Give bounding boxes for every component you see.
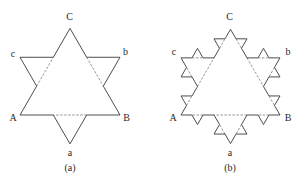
fig-a-label-c: c bbox=[11, 49, 15, 59]
fig-b-label-c: c bbox=[172, 47, 176, 57]
figure-b-snowflake-outline bbox=[181, 29, 280, 143]
fig-b-label-C: C bbox=[226, 12, 233, 22]
figure-a-koch-iteration-1 bbox=[20, 28, 120, 143]
fig-a-label-b: b bbox=[123, 47, 128, 57]
fig-b-label-B: B bbox=[285, 113, 292, 123]
fig-a-label-C: C bbox=[66, 12, 73, 22]
figure-a-removed-segments bbox=[37, 57, 104, 115]
koch-snowflake-diagram bbox=[0, 0, 299, 185]
fig-a-caption: (a) bbox=[64, 163, 75, 173]
figure-a-star-outline bbox=[20, 28, 120, 143]
fig-a-label-a: a bbox=[68, 148, 72, 158]
figure-b-koch-iteration-2 bbox=[181, 29, 280, 143]
fig-b-label-A: A bbox=[169, 113, 176, 123]
figure-b-removed-segments bbox=[187, 39, 275, 134]
fig-b-label-b: b bbox=[286, 47, 291, 57]
fig-b-caption: (b) bbox=[224, 163, 236, 173]
fig-a-label-A: A bbox=[9, 113, 16, 123]
fig-b-label-a: a bbox=[228, 148, 232, 158]
fig-a-label-B: B bbox=[123, 113, 130, 123]
